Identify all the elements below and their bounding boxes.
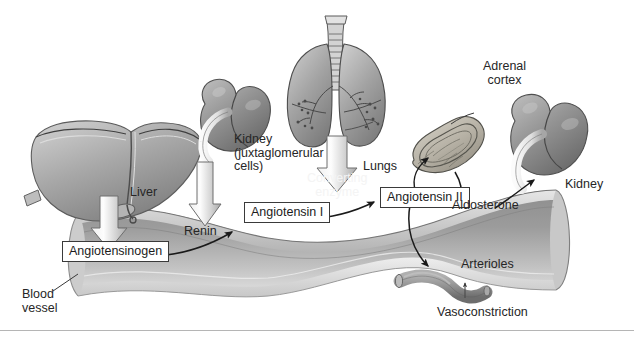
label-kidney-juxtaglomerular: Kidney (juxtaglomerular cells)	[234, 133, 324, 174]
kidney-right-illustration	[511, 94, 588, 189]
label-liver: Liver	[130, 186, 157, 200]
figure-bottom-rule	[0, 330, 634, 331]
diagram-canvas: Liver Kidney (juxtaglomerular cells) Lun…	[0, 0, 634, 340]
label-adrenal-cortex: Adrenal cortex	[483, 60, 526, 87]
kidney-right-body	[511, 94, 588, 175]
left-lung	[287, 44, 332, 147]
right-lung	[339, 44, 385, 146]
label-blood-vessel: Blood vessel	[22, 288, 57, 315]
label-aldosterone: Aldosterone	[452, 199, 519, 213]
lungs-illustration	[287, 16, 385, 147]
adrenal-cortex-illustration	[413, 116, 484, 172]
label-converting-enzyme: Converting enzyme	[307, 172, 367, 199]
label-arterioles: Arterioles	[461, 258, 514, 272]
vessel-right-cap	[550, 190, 570, 290]
kidney-to-vessel-block-arrow	[189, 162, 221, 226]
label-vasoconstriction: Vasoconstriction	[437, 306, 528, 320]
label-kidney-right: Kidney	[565, 178, 603, 192]
label-angiotensinogen: Angiotensinogen	[62, 241, 169, 262]
label-renin: Renin	[184, 225, 217, 239]
label-angiotensin-1: Angiotensin I	[244, 202, 330, 223]
label-lungs: Lungs	[363, 160, 397, 174]
